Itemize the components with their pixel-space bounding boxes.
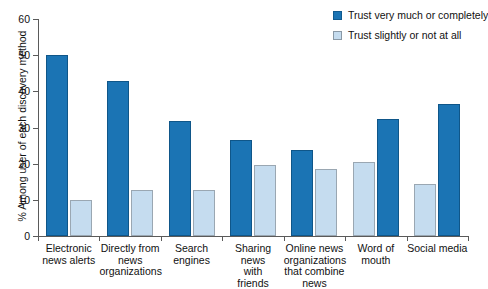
x-category-label-0: Electronicnews alerts <box>38 243 99 266</box>
bar-dark-2 <box>169 121 191 236</box>
x-tick <box>161 236 162 241</box>
y-tick-label: 20 <box>18 158 30 170</box>
bar-dark-6 <box>438 104 460 236</box>
bar-dark-0 <box>46 55 68 236</box>
y-tick-label: 50 <box>18 49 30 61</box>
x-category-label-line: Directly from <box>99 243 160 255</box>
plot-area: 0102030405060 <box>38 19 468 236</box>
y-tick-label: 30 <box>18 122 30 134</box>
x-category-label-1: Directly fromnewsorganizations <box>99 243 160 278</box>
bar-dark-1 <box>107 81 129 236</box>
x-tick <box>345 236 346 241</box>
y-tick-label: 40 <box>18 85 30 97</box>
bar-light-4 <box>315 169 337 236</box>
x-category-label-line: with <box>222 266 283 278</box>
x-category-label-line: Word of <box>345 243 406 255</box>
y-axis-line <box>38 19 39 237</box>
x-category-label-line: engines <box>161 255 222 267</box>
x-category-label-line: Search <box>161 243 222 255</box>
x-category-label-line: news <box>284 278 345 289</box>
x-category-label-line: Electronic <box>38 243 99 255</box>
x-axis-category-labels: Electronicnews alertsDirectly fromnewsor… <box>38 243 468 288</box>
y-tick-label: 0 <box>24 230 30 242</box>
x-category-label-6: Social media <box>407 243 468 255</box>
bar-light-1 <box>131 190 153 236</box>
y-tick <box>33 200 38 201</box>
x-category-label-5: Word ofmouth <box>345 243 406 266</box>
x-tick <box>468 236 469 241</box>
x-tick <box>407 236 408 241</box>
bar-light-5 <box>353 162 375 237</box>
y-tick <box>33 91 38 92</box>
x-category-label-line: mouth <box>345 255 406 267</box>
y-tick <box>33 164 38 165</box>
x-category-label-line: Online news <box>284 243 345 255</box>
x-category-label-3: Sharingnewswithfriends <box>222 243 283 289</box>
x-category-label-2: Searchengines <box>161 243 222 266</box>
x-category-label-line: organizations <box>99 266 160 278</box>
x-tick <box>284 236 285 241</box>
bar-dark-5 <box>377 119 399 236</box>
x-category-label-line: news alerts <box>38 255 99 267</box>
bar-light-0 <box>70 200 92 236</box>
bar-dark-4 <box>291 150 313 236</box>
y-tick <box>33 128 38 129</box>
y-tick-label: 10 <box>18 194 30 206</box>
x-category-label-line: Social media <box>407 243 468 255</box>
x-tick <box>38 236 39 241</box>
x-category-label-line: friends <box>222 278 283 289</box>
x-tick <box>99 236 100 241</box>
x-axis-line <box>38 236 468 237</box>
x-category-label-line: that combine <box>284 266 345 278</box>
x-category-label-line: Sharing <box>222 243 283 255</box>
bar-light-3 <box>254 165 276 236</box>
bar-light-6 <box>414 184 436 236</box>
x-category-label-4: Online newsorganizationsthat combinenews <box>284 243 345 289</box>
y-tick-label: 60 <box>18 13 30 25</box>
y-tick <box>33 55 38 56</box>
bar-light-2 <box>193 190 215 236</box>
y-tick <box>33 19 38 20</box>
x-tick <box>222 236 223 241</box>
bar-dark-3 <box>230 140 252 236</box>
